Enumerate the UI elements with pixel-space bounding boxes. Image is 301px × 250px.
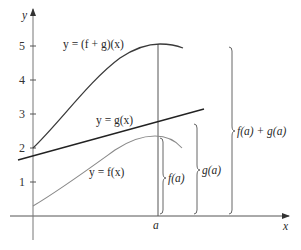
brace-f-a-label: f(a) (168, 172, 185, 185)
y-axis-label: y (21, 9, 28, 22)
function-sum-diagram: 1 2 3 4 5 y x a y = (f + g)(x) y = g(x) … (0, 0, 301, 250)
g-curve-label: y = g(x) (96, 114, 133, 127)
brace-sum-a-label: f(a) + g(a) (237, 125, 286, 138)
y-tick-4: 4 (19, 73, 25, 87)
y-tick-1: 1 (19, 175, 25, 189)
sum-curve (33, 44, 183, 148)
brace-sum-a (229, 47, 235, 214)
brace-g-a-label: g(a) (202, 164, 221, 177)
brace-g-a (194, 124, 200, 214)
f-curve-label: y = f(x) (89, 166, 124, 179)
y-tick-2: 2 (19, 141, 25, 155)
sum-curve-label: y = (f + g)(x) (63, 38, 124, 51)
brace-f-a (160, 138, 166, 214)
y-tick-3: 3 (19, 107, 25, 121)
x-marker-a: a (153, 219, 159, 231)
y-tick-5: 5 (19, 39, 25, 53)
x-axis-label: x (282, 220, 289, 232)
